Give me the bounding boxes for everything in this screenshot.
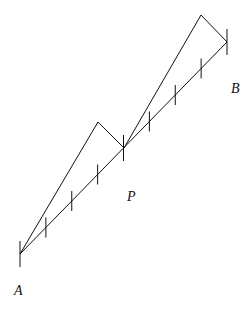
label-a: A xyxy=(14,284,23,298)
label-p: P xyxy=(127,190,136,204)
construction-return-2 xyxy=(201,15,227,42)
construction-line-2 xyxy=(124,15,201,148)
label-b: B xyxy=(231,82,240,96)
construction-line-1 xyxy=(20,122,98,254)
line-segment-diagram xyxy=(0,0,251,311)
construction-return-1 xyxy=(98,122,124,148)
diagram-canvas: A P B xyxy=(0,0,251,311)
